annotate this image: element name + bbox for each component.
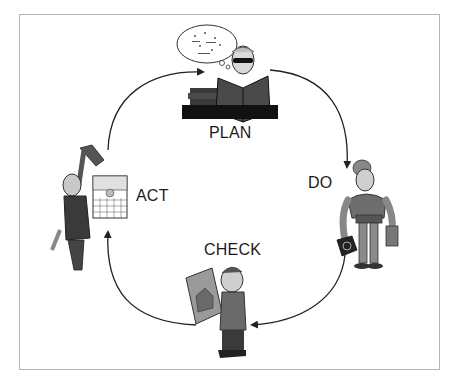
arrow-do-to-check <box>252 255 345 325</box>
stage-label-do: DO <box>308 174 332 192</box>
stage-label-act: ACT <box>136 187 169 205</box>
stage-label-plan: PLAN <box>209 124 252 142</box>
do-figure <box>337 160 398 269</box>
stage-label-check: CHECK <box>204 241 261 259</box>
act-figure <box>52 145 127 270</box>
arrow-plan-to-do <box>270 70 347 167</box>
pdca-cycle-diagram <box>0 0 458 389</box>
check-figure <box>186 267 246 358</box>
arrow-check-to-act <box>108 232 196 325</box>
plan-figure <box>177 25 278 122</box>
